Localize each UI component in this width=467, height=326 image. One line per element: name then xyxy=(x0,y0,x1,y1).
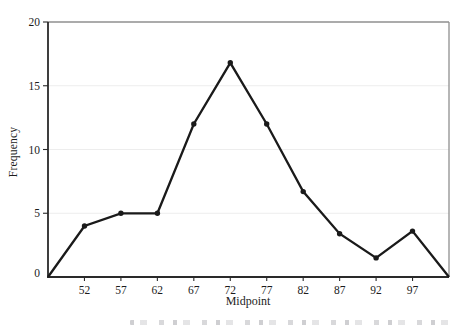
x-axis-title: Midpoint xyxy=(226,294,271,309)
y-tick-label-5: 5 xyxy=(12,205,40,221)
data-point-77 xyxy=(264,121,269,126)
plot-area xyxy=(0,0,467,326)
x-tick-label-57: 57 xyxy=(106,282,136,298)
data-point-87 xyxy=(337,231,342,236)
data-point-52 xyxy=(82,223,87,228)
data-point-57 xyxy=(118,211,123,216)
data-point-62 xyxy=(155,211,160,216)
x-tick-label-82: 82 xyxy=(288,282,318,298)
data-point-72 xyxy=(228,60,233,65)
data-point-97 xyxy=(410,228,415,233)
y-tick-label-15: 15 xyxy=(12,78,40,94)
x-tick-label-97: 97 xyxy=(398,282,428,298)
x-tick-label-67: 67 xyxy=(179,282,209,298)
data-point-67 xyxy=(191,121,196,126)
y-tick-label-20: 20 xyxy=(12,14,40,30)
x-tick-label-87: 87 xyxy=(325,282,355,298)
frequency-polygon-figure: 05101520 52576267727782879297 Frequency … xyxy=(0,0,467,326)
x-tick-label-92: 92 xyxy=(361,282,391,298)
data-point-92 xyxy=(373,255,378,260)
x-tick-label-62: 62 xyxy=(142,282,172,298)
x-tick-label-52: 52 xyxy=(69,282,99,298)
frequency-polygon-line xyxy=(48,63,449,277)
data-point-82 xyxy=(301,189,306,194)
cropped-caption-fragment xyxy=(130,320,460,325)
y-axis-title: Frequency xyxy=(7,127,19,177)
y-tick-label-0: 0 xyxy=(12,265,40,281)
